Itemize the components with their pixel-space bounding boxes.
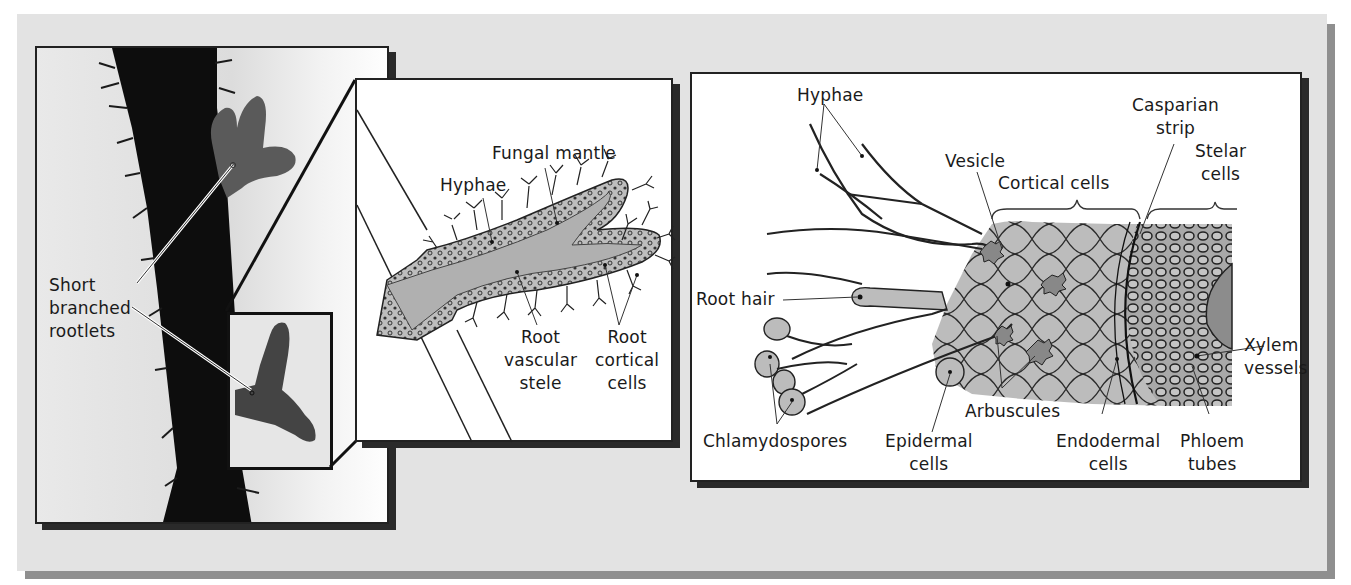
label-endodermal-cells: Endodermal cells (1056, 430, 1160, 476)
label-root-hair: Root hair (696, 288, 775, 311)
label-phloem-tubes: Phloem tubes (1180, 430, 1244, 476)
label-root-vascular-stele: Root vascular stele (504, 326, 577, 395)
label-fungal-mantle: Fungal mantle (492, 142, 616, 165)
label-arbuscules: Arbuscules (965, 400, 1060, 423)
label-epidermal-cells: Epidermal cells (885, 430, 973, 476)
label-xylem-vessels: Xylem vessels (1244, 334, 1308, 380)
label-hyphae-ecto: Hyphae (440, 174, 507, 197)
label-stelar-cells: Stelar cells (1195, 140, 1246, 186)
label-chlamydospores: Chlamydospores (703, 430, 847, 453)
label-vesicle: Vesicle (945, 150, 1005, 173)
label-casparian-strip: Casparian strip (1132, 94, 1219, 140)
label-root-cortical-cells: Root cortical cells (595, 326, 659, 395)
label-hyphae-am: Hyphae (797, 84, 864, 107)
ectomycorrhiza-panel: Fungal mantle Hyphae Root vascular stele… (355, 78, 673, 442)
arbuscular-mycorrhiza-panel: Hyphae Vesicle Cortical cells Casparian … (690, 72, 1302, 482)
label-cortical-cells: Cortical cells (998, 172, 1109, 195)
